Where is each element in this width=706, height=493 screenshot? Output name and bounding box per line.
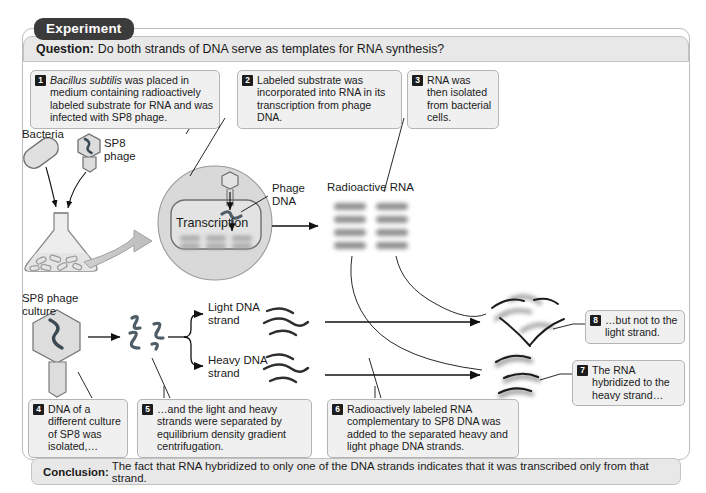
callout-8: 8 …but not to the light strand. xyxy=(585,310,685,344)
callout-1: 1 Bacillus subtilis was placed in medium… xyxy=(30,70,220,129)
callout-1-number: 1 xyxy=(35,75,46,86)
label-sp8-phage-culture: SP8 phage culture xyxy=(22,292,78,318)
callout-3-number: 3 xyxy=(412,75,423,86)
callout-5-number: 5 xyxy=(142,404,153,415)
label-phage-dna: Phage DNA xyxy=(272,182,305,208)
callout-7: 7 The RNA hybridized to the heavy strand… xyxy=(572,360,685,406)
callout-1-italic: Bacillus subtilis xyxy=(50,74,122,86)
callout-7-number: 7 xyxy=(577,365,588,376)
callout-4-number: 4 xyxy=(33,404,44,415)
label-light-dna-strand: Light DNA strand xyxy=(208,301,260,327)
question-prefix: Question: xyxy=(36,42,94,56)
label-radioactive-rna: Radioactive RNA xyxy=(327,181,414,194)
callout-5-text: …and the light and heavy strands were se… xyxy=(157,403,306,453)
conclusion-bar: Conclusion: The fact that RNA hybridized… xyxy=(31,458,681,485)
callout-7-text: The RNA hybridized to the heavy strand… xyxy=(592,364,679,401)
callout-4-text: DNA of a different culture of SP8 was is… xyxy=(48,403,122,453)
label-transcription: Transcription xyxy=(176,217,248,230)
conclusion-prefix: Conclusion: xyxy=(43,466,109,478)
label-bacteria: Bacteria xyxy=(22,128,64,141)
question-text: Do both strands of DNA serve as template… xyxy=(98,42,444,56)
conclusion-text: The fact that RNA hybridized to only one… xyxy=(112,460,680,484)
callout-6: 6 Radioactively labeled RNA complementar… xyxy=(327,399,519,458)
callout-2: 2 Labeled substrate was incorporated int… xyxy=(237,70,402,129)
callout-6-text: Radioactively labeled RNA complementary … xyxy=(347,403,513,453)
callout-6-number: 6 xyxy=(332,404,343,415)
callout-2-number: 2 xyxy=(242,75,253,86)
callout-4: 4 DNA of a different culture of SP8 was … xyxy=(28,399,128,458)
experiment-tab-label: Experiment xyxy=(34,18,134,40)
callout-8-number: 8 xyxy=(590,315,601,326)
callout-2-text: Labeled substrate was incorporated into … xyxy=(257,74,396,124)
callout-3: 3 RNA was then isolated from bacterial c… xyxy=(407,70,499,129)
callout-8-text: …but not to the light strand. xyxy=(605,314,679,339)
callout-5: 5 …and the light and heavy strands were … xyxy=(137,399,312,458)
experiment-figure: Experiment Question: Do both strands of … xyxy=(0,0,706,493)
label-heavy-dna-strand: Heavy DNA strand xyxy=(208,354,268,380)
callout-1-text: Bacillus subtilis was placed in medium c… xyxy=(50,74,214,124)
callout-3-text: RNA was then isolated from bacterial cel… xyxy=(427,74,493,124)
label-sp8-phage: SP8 phage xyxy=(104,137,136,163)
